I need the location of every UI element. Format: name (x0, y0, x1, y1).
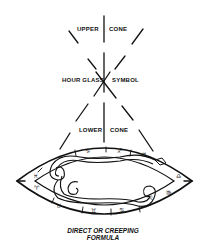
zodiac-taurus-glyph: ♉ (56, 203, 61, 209)
zodiac-cancer-glyph: ♋ (119, 207, 124, 213)
zodiac-gemini-glyph: ♊ (91, 208, 96, 214)
upper-cone-label-left: Upper (77, 26, 99, 32)
lower-cone-label-left: Lower (79, 127, 102, 133)
mid-upper-left-ray (88, 59, 96, 69)
mid-upper-right-ray (115, 56, 125, 69)
lower-left-ray-2 (60, 133, 70, 149)
hourglass-label-left: Hour Glass (62, 77, 104, 83)
caption-line-2: FORMULA (0, 234, 206, 241)
zodiac-sagittarius-glyph: ♐ (117, 148, 122, 154)
zodiac-aquarius-glyph: ♒ (58, 154, 63, 160)
upper-right-ray (132, 29, 143, 44)
zodiac-pisces-glyph: ♓ (33, 173, 38, 179)
zodiac-libra-glyph: ♎ (176, 173, 181, 179)
zodiac-scorpio-glyph: ♏ (142, 152, 147, 158)
zodiac-aries-glyph: ♈ (34, 185, 39, 191)
caption-line-1: DIRECT OR CREEPING (0, 227, 206, 234)
cross-line-a (96, 72, 116, 98)
zodiac-virgo-glyph: ♍ (166, 190, 171, 196)
lower-cone-label-right: Cone (110, 127, 128, 133)
upper-left-ray (69, 31, 78, 43)
zodiac-band (17, 147, 192, 215)
lower-left-ray (76, 104, 88, 121)
zodiac-capricorn-glyph: ♑ (85, 148, 90, 154)
hourglass-label-right: Symbol (112, 77, 139, 83)
zodiac-leo-glyph: ♌ (148, 195, 153, 201)
cross-line-b (94, 72, 110, 96)
upper-cone-label-right: Cone (109, 26, 127, 32)
hourglass-diagram (0, 0, 206, 249)
lower-right-ray-2 (139, 130, 153, 151)
lower-right-ray (122, 106, 133, 120)
